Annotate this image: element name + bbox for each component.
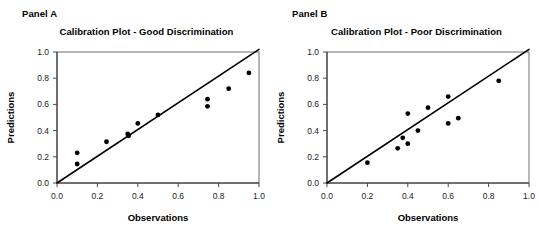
y-tick-label: 0.4 <box>37 126 49 136</box>
y-tick-label: 0.2 <box>37 152 49 162</box>
data-point <box>205 104 210 109</box>
y-tick-label: 0.2 <box>307 152 319 162</box>
x-tick-label: 1.0 <box>523 191 535 201</box>
data-point <box>446 94 451 99</box>
data-point <box>156 112 161 117</box>
y-tick-label: 0.0 <box>37 178 49 188</box>
data-point <box>426 105 431 110</box>
x-tick-label: 0.4 <box>402 191 414 201</box>
data-point <box>75 150 80 155</box>
y-tick-label: 0.6 <box>307 99 319 109</box>
data-point <box>400 135 405 140</box>
calibration-figure: Panel A Calibration Plot - Good Discrimi… <box>0 0 539 241</box>
x-tick-label: 0.6 <box>172 191 184 201</box>
data-point <box>446 121 451 126</box>
data-point <box>226 86 231 91</box>
reference-line <box>327 49 529 183</box>
y-tick-label: 0.8 <box>307 73 319 83</box>
data-point <box>75 162 80 167</box>
data-point <box>416 128 421 133</box>
x-tick-label: 0.8 <box>483 191 495 201</box>
data-point <box>247 71 252 76</box>
x-tick-label: 0.8 <box>213 191 225 201</box>
panel-a-plot: 0.00.20.40.60.81.00.00.20.40.60.81.0Obse… <box>0 0 269 241</box>
panel-b-plot: 0.00.20.40.60.81.00.00.20.40.60.81.0Obse… <box>270 0 539 241</box>
y-axis-title: Predictions <box>275 92 286 144</box>
y-axis-title: Predictions <box>5 92 16 144</box>
data-point <box>104 139 109 144</box>
data-point <box>135 121 140 126</box>
y-tick-label: 0.4 <box>307 126 319 136</box>
data-point <box>126 133 131 138</box>
x-tick-label: 0.4 <box>132 191 144 201</box>
y-tick-label: 1.0 <box>37 47 49 57</box>
x-tick-label: 0.2 <box>91 191 103 201</box>
y-tick-label: 0.8 <box>37 73 49 83</box>
x-tick-label: 0.0 <box>321 191 333 201</box>
data-point <box>496 78 501 83</box>
panel-b: Panel B Calibration Plot - Poor Discrimi… <box>270 0 539 241</box>
x-tick-label: 1.0 <box>253 191 265 201</box>
y-tick-label: 1.0 <box>307 47 319 57</box>
x-axis-title: Observations <box>398 212 459 223</box>
panel-a: Panel A Calibration Plot - Good Discrimi… <box>0 0 269 241</box>
data-point <box>405 111 410 116</box>
data-point <box>395 146 400 151</box>
data-point <box>405 141 410 146</box>
data-point <box>456 116 461 121</box>
x-tick-label: 0.0 <box>51 191 63 201</box>
x-tick-label: 0.6 <box>442 191 454 201</box>
data-point <box>205 97 210 102</box>
x-tick-label: 0.2 <box>361 191 373 201</box>
y-tick-label: 0.0 <box>307 178 319 188</box>
y-tick-label: 0.6 <box>37 99 49 109</box>
x-axis-title: Observations <box>128 212 189 223</box>
data-point <box>365 160 370 165</box>
